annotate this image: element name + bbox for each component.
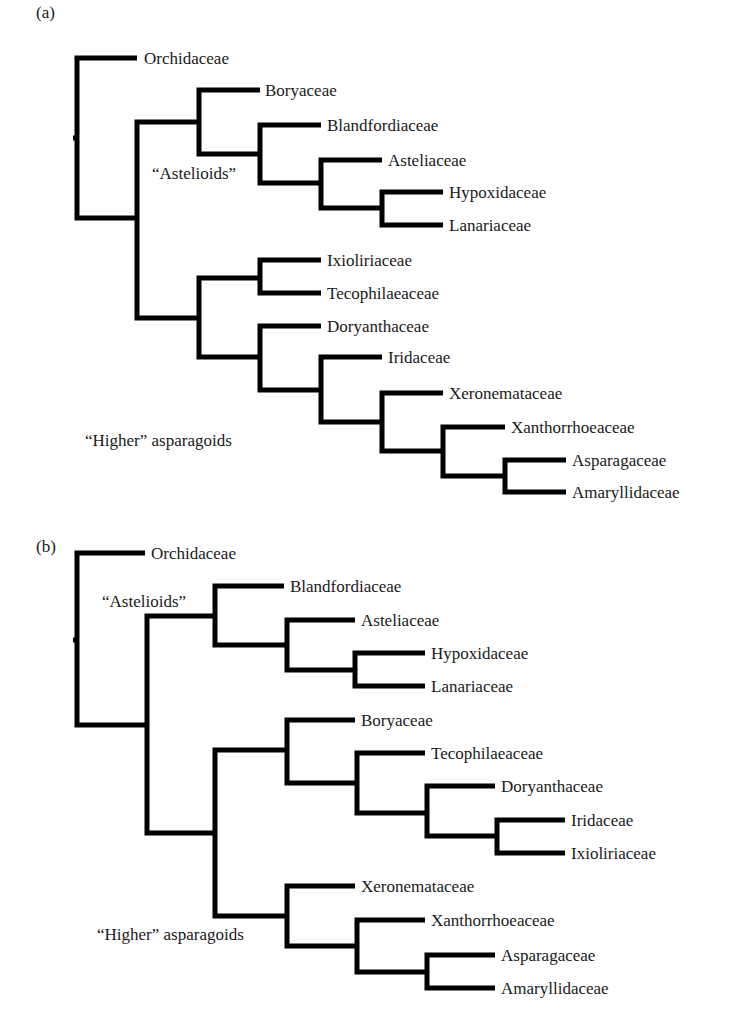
tree-branch: [147, 616, 215, 833]
taxon-label: Blandfordiaceae: [327, 116, 438, 135]
tree-branch: [287, 720, 357, 783]
taxon-label: Xanthorrhoeaceae: [431, 911, 555, 930]
taxon-label: Asparagaceae: [572, 451, 666, 470]
clade-label: “Higher” asparagoids: [97, 925, 244, 944]
tree-panel-a: (a)OrchidaceaeBoryaceaeBlandfordiaceaeAs…: [36, 3, 680, 502]
taxon-label: Ixioliriaceae: [327, 251, 412, 270]
panel-label: (a): [36, 3, 55, 22]
tree-branch: [215, 586, 287, 645]
tree-branch: [260, 260, 321, 293]
taxon-label: Iridaceae: [571, 811, 633, 830]
clade-label: “Astelioids”: [152, 164, 236, 183]
taxon-label: Doryanthaceae: [327, 317, 429, 336]
taxon-label: Blandfordiaceae: [290, 577, 401, 596]
tree-branch: [427, 955, 495, 988]
tree-branch: [505, 460, 566, 492]
taxon-label: Boryaceae: [361, 711, 433, 730]
tree-branch: [357, 920, 427, 972]
taxon-label: Hypoxidaceae: [431, 644, 528, 663]
taxon-label: Xanthorrhoeaceae: [511, 418, 635, 437]
tree-branch: [260, 326, 321, 390]
panel-label: (b): [36, 537, 56, 556]
phylogenetic-figure: (a)OrchidaceaeBoryaceaeBlandfordiaceaeAs…: [0, 0, 739, 1036]
taxon-label: Tecophilaeaceae: [431, 744, 543, 763]
tree-branch: [199, 278, 260, 357]
tree-branch: [427, 786, 497, 836]
clade-label: “Astelioids”: [102, 592, 186, 611]
taxon-label: Boryaceae: [265, 81, 337, 100]
taxon-label: Lanariaceae: [449, 216, 531, 235]
tree-branch: [215, 750, 287, 916]
taxon-label: Lanariaceae: [431, 677, 513, 696]
taxon-label: Orchidaceae: [151, 544, 236, 563]
taxon-label: Hypoxidaceae: [449, 183, 546, 202]
tree-branch: [287, 886, 357, 946]
tree-branch: [382, 192, 443, 225]
tree-branch: [321, 357, 382, 422]
tree-branch: [137, 122, 199, 318]
tree-branch: [77, 58, 137, 218]
tree-branch: [355, 653, 425, 686]
tree-branch: [497, 820, 565, 853]
tree-branch: [321, 160, 382, 208]
taxon-label: Asteliaceae: [361, 611, 439, 630]
tree-branch: [77, 553, 147, 725]
taxon-label: Xeronemataceae: [449, 384, 562, 403]
tree-branch: [382, 393, 443, 451]
tree-branch: [287, 620, 355, 670]
taxon-label: Xeronemataceae: [361, 877, 474, 896]
tree-branch: [260, 125, 321, 183]
taxon-label: Amaryllidaceae: [572, 483, 680, 502]
tree-branch: [443, 427, 505, 476]
taxon-label: Orchidaceae: [144, 49, 229, 68]
taxon-label: Ixioliriaceae: [571, 844, 656, 863]
taxon-label: Asparagaceae: [501, 946, 595, 965]
taxon-label: Asteliaceae: [388, 151, 466, 170]
tree-branch: [357, 753, 427, 813]
taxon-label: Doryanthaceae: [501, 777, 603, 796]
taxon-label: Tecophilaeaceae: [327, 284, 439, 303]
tree-branch: [199, 90, 260, 154]
taxon-label: Amaryllidaceae: [501, 979, 609, 998]
clade-label: “Higher” asparagoids: [85, 431, 232, 450]
tree-panel-b: (b)OrchidaceaeBlandfordiaceaeAsteliaceae…: [36, 537, 656, 998]
taxon-label: Iridaceae: [388, 348, 450, 367]
